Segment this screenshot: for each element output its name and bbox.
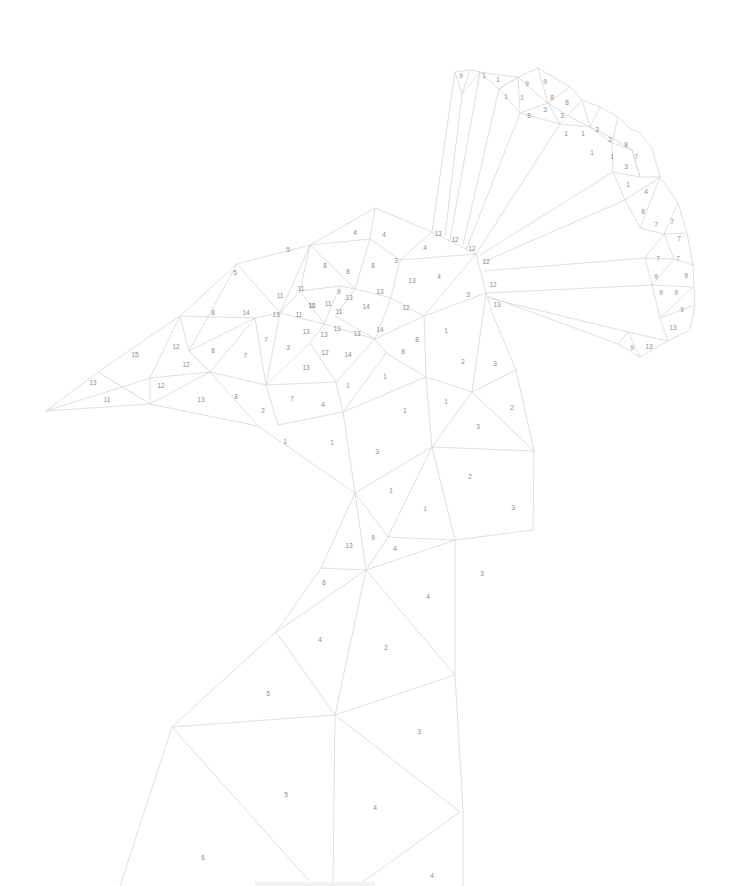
region-number: 13: [669, 325, 676, 332]
region-number: 2: [468, 474, 472, 481]
region-number: 4: [353, 230, 357, 237]
region-number: 12: [321, 350, 328, 357]
region-number: 3: [595, 127, 599, 134]
region-number: 12: [172, 344, 179, 351]
region-number: 8: [211, 310, 215, 317]
region-number: 5: [284, 792, 288, 799]
region-number: 3: [493, 361, 497, 368]
region-number: 8: [371, 263, 375, 270]
region-number: 4: [382, 232, 386, 239]
region-number: 15: [131, 352, 138, 359]
region-number: 8: [624, 142, 628, 149]
region-number: 1: [283, 439, 287, 446]
region-number: 13: [320, 332, 327, 339]
region-number: 4: [430, 873, 434, 880]
region-number: 11: [325, 301, 332, 308]
region-number: 1: [383, 374, 387, 381]
region-number: 9: [337, 289, 341, 296]
region-number: 8: [234, 394, 238, 401]
region-number: 13: [376, 289, 383, 296]
region-number: 8: [565, 100, 569, 107]
region-number: 1: [581, 131, 585, 138]
region-number: 7: [670, 219, 674, 226]
region-number: 11: [277, 293, 284, 300]
region-number: 1: [590, 150, 594, 157]
region-number: 8: [550, 95, 554, 102]
paint-by-number-canvas: [0, 0, 735, 886]
region-number: 13: [89, 380, 96, 387]
region-number: 9: [543, 79, 547, 86]
region-number: 3: [476, 424, 480, 431]
region-number: 9: [654, 274, 658, 281]
region-number: 8: [415, 337, 419, 344]
region-number: 1: [330, 440, 334, 447]
region-number: 13: [493, 302, 500, 309]
region-number: 5: [266, 691, 270, 698]
region-number: 7: [677, 236, 681, 243]
region-number: 8: [401, 349, 405, 356]
region-number: 2: [461, 359, 465, 366]
region-number: 6: [201, 855, 205, 862]
region-number: 12: [489, 282, 496, 289]
bottom-edge-bar: [255, 882, 375, 886]
region-number: 11: [296, 312, 303, 319]
region-number: 1: [496, 77, 500, 84]
region-number: 8: [527, 113, 531, 120]
region-number: 3: [543, 107, 547, 114]
region-number: 9: [525, 81, 529, 88]
region-number: 13: [408, 278, 415, 285]
region-number: 7: [264, 337, 268, 344]
region-number: 1: [444, 328, 448, 335]
region-number: 1: [504, 94, 508, 101]
region-number: 13: [434, 231, 441, 238]
region-number: 10: [308, 303, 315, 310]
region-number: 7: [676, 256, 680, 263]
region-number: 4: [318, 637, 322, 644]
region-number: 9: [371, 535, 375, 542]
region-number: 2: [510, 405, 514, 412]
region-number: 4: [644, 189, 648, 196]
region-number: 7: [634, 154, 638, 161]
region-number: 8: [641, 209, 645, 216]
region-number: 12: [451, 237, 458, 244]
region-number: 12: [182, 362, 189, 369]
region-number: 3: [480, 571, 484, 578]
region-number: 1: [520, 95, 524, 102]
region-number: 3: [560, 113, 564, 120]
region-number: 9: [630, 345, 634, 352]
region-number: 1: [482, 73, 486, 80]
region-number: 5: [233, 270, 237, 277]
region-number: 13: [302, 365, 309, 372]
region-number: 14: [362, 304, 369, 311]
region-number: 11: [298, 286, 305, 293]
region-number: 11: [104, 397, 111, 404]
region-number: 14: [242, 310, 249, 317]
region-number: 12: [157, 383, 164, 390]
region-number: 5: [286, 247, 290, 254]
region-number: 4: [321, 402, 325, 409]
region-number: 3: [624, 164, 628, 171]
region-number: 1: [423, 506, 427, 513]
region-number: 12: [468, 246, 475, 253]
region-number: 14: [344, 352, 351, 359]
head-lines: [46, 208, 534, 886]
region-number: 13: [333, 326, 340, 333]
region-number: 3: [394, 258, 398, 265]
region-number: 1: [346, 383, 350, 390]
region-number: 4: [423, 245, 427, 252]
region-number: 13: [345, 295, 352, 302]
region-number: 3: [286, 345, 290, 352]
region-number: 13: [197, 397, 204, 404]
region-number: 13: [645, 344, 652, 351]
region-number: 7: [290, 396, 294, 403]
region-number: 7: [656, 256, 660, 263]
region-number: 3: [417, 729, 421, 736]
region-number: 1: [564, 131, 568, 138]
region-number: 13: [272, 312, 279, 319]
region-number: 14: [376, 327, 383, 334]
region-number: 11: [336, 309, 343, 316]
region-number: 13: [302, 329, 309, 336]
region-number: 6: [322, 580, 326, 587]
region-number: 12: [402, 305, 409, 312]
region-number: 7: [243, 353, 247, 360]
